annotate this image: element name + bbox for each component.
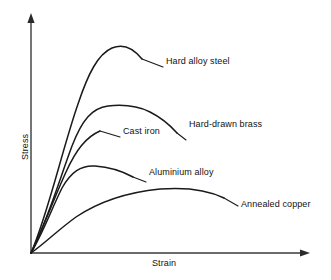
stress-strain-figure: Hard alloy steel Hard-drawn brass Cast i…: [0, 0, 331, 280]
leader-annealed-copper: [224, 198, 238, 206]
leader-hard-drawn-brass: [177, 133, 186, 140]
label-cast-iron: Cast iron: [123, 126, 160, 136]
x-axis-label: Strain: [152, 258, 176, 268]
leader-hard-alloy-steel: [142, 59, 163, 67]
x-axis-arrow-icon: [300, 249, 310, 256]
y-axis-arrow-icon: [27, 13, 34, 23]
label-hard-drawn-brass: Hard-drawn brass: [189, 119, 262, 129]
label-hard-alloy-steel: Hard alloy steel: [166, 56, 230, 66]
leader-cast-iron: [100, 131, 120, 137]
leader-aluminium-alloy: [133, 177, 146, 182]
label-aluminium-alloy: Aluminium alloy: [149, 167, 214, 177]
y-axis-label: Stress: [20, 134, 30, 160]
curve-annealed-copper: [31, 188, 224, 253]
curve-hard-alloy-steel: [31, 46, 142, 253]
plot-area: [0, 0, 331, 280]
label-annealed-copper: Annealed copper: [241, 199, 311, 209]
